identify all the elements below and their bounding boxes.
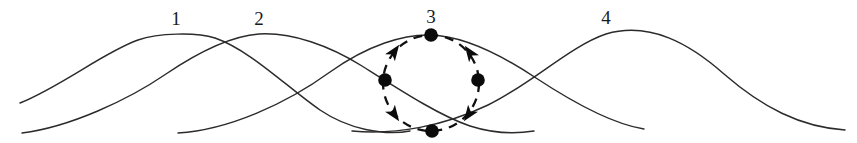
orbit-dot-bottom — [425, 124, 439, 138]
wave-curve-4 — [352, 30, 845, 132]
wave-curve-1 — [20, 34, 410, 133]
orbit-arrow-lower-left-icon — [385, 105, 404, 125]
wave-curves-group — [20, 30, 845, 133]
orbit-group — [378, 28, 485, 138]
wave-diagram-figure: 1 2 3 4 — [0, 0, 857, 143]
wave-label-2: 2 — [254, 9, 264, 28]
wave-label-3: 3 — [426, 7, 436, 26]
orbit-arrow-lower-right-icon — [459, 105, 478, 125]
orbit-dot-right — [471, 73, 485, 87]
wave-label-1: 1 — [171, 9, 181, 28]
orbit-dot-left — [378, 73, 392, 87]
wave-label-4: 4 — [601, 8, 611, 27]
orbit-dot-top — [424, 28, 438, 42]
